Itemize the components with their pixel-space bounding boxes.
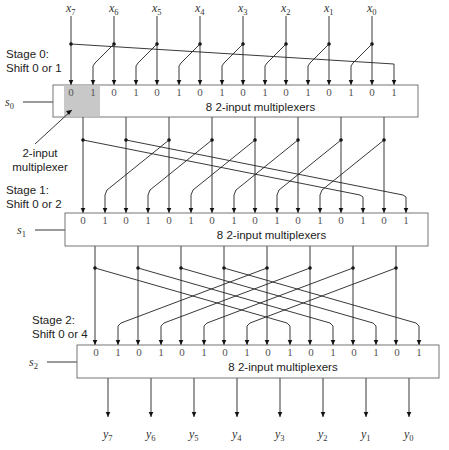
wraparound-wire — [71, 44, 394, 85]
mux-input-label-0: 0 — [283, 86, 289, 98]
arrowhead-icon — [136, 340, 141, 345]
arrowhead-icon — [167, 208, 172, 213]
callout-line2: multiplexer — [12, 161, 68, 173]
mux-input-label-1: 1 — [145, 214, 151, 226]
arrowhead-icon — [407, 412, 412, 417]
mux-input-label-1: 1 — [158, 346, 164, 358]
mux-input-label-0: 0 — [209, 214, 215, 226]
arrowhead-icon — [112, 80, 117, 85]
output-label: y1 — [360, 427, 371, 443]
input-label: x5 — [151, 1, 162, 17]
mux-input-label-0: 0 — [240, 86, 246, 98]
mux-input-label-0: 0 — [326, 86, 332, 98]
mux-input-label-1: 1 — [403, 214, 409, 226]
output-label: y7 — [102, 427, 113, 443]
mux-input-label-1: 1 — [201, 346, 207, 358]
arrowhead-icon — [93, 340, 98, 345]
mux-input-label-0: 0 — [351, 346, 357, 358]
mux-input-label-1: 1 — [330, 346, 336, 358]
arrowhead-icon — [265, 340, 270, 345]
mux-input-label-0: 0 — [369, 86, 375, 98]
callout-line1: 2-input — [22, 147, 58, 159]
wraparound-wire — [95, 268, 290, 345]
input-label: x4 — [194, 1, 205, 17]
arrowhead-icon — [296, 208, 301, 213]
mux-input-label-1: 1 — [188, 214, 194, 226]
arrowhead-icon — [263, 80, 268, 85]
output-label: y5 — [188, 427, 199, 443]
input-label: x0 — [366, 1, 377, 17]
shift-wire — [320, 140, 384, 213]
arrowhead-icon — [278, 412, 283, 417]
input-label: x6 — [108, 1, 119, 17]
mux-input-label-0: 0 — [123, 214, 129, 226]
arrowhead-icon — [210, 208, 215, 213]
stage-title: Stage 1: — [6, 184, 49, 196]
arrowhead-icon — [179, 340, 184, 345]
output-label: y2 — [317, 427, 328, 443]
shift-wire — [265, 44, 286, 85]
output-label: y6 — [145, 427, 156, 443]
stage-subtitle: Shift 0 or 2 — [6, 198, 62, 210]
arrowhead-icon — [351, 340, 356, 345]
select-signal-label: s0 — [5, 95, 14, 111]
shift-wire — [191, 140, 255, 213]
shift-wire — [93, 44, 114, 85]
arrowhead-icon — [245, 340, 250, 345]
arrowhead-icon — [116, 340, 121, 345]
mux-input-label-1: 1 — [244, 346, 250, 358]
mux-input-label-1: 1 — [373, 346, 379, 358]
stage-subtitle: Shift 0 or 1 — [6, 62, 62, 74]
arrowhead-icon — [106, 412, 111, 417]
arrowhead-icon — [275, 208, 280, 213]
stage-title: Stage 0: — [6, 48, 49, 60]
arrowhead-icon — [404, 208, 409, 213]
mux-input-label-0: 0 — [252, 214, 258, 226]
arrowhead-icon — [288, 340, 293, 345]
mux-input-label-1: 1 — [176, 86, 182, 98]
mux-stage-label: 8 2-input multiplexers — [206, 101, 316, 113]
shift-wire — [351, 44, 372, 85]
select-signal-label: s1 — [17, 223, 26, 239]
arrowhead-icon — [339, 208, 344, 213]
mux-input-label-0: 0 — [111, 86, 117, 98]
arrowhead-icon — [177, 80, 182, 85]
arrowhead-icon — [134, 80, 139, 85]
arrowhead-icon — [103, 208, 108, 213]
barrel-shifter-diagram: 01010101010101018 2-input multiplexers01… — [0, 0, 449, 450]
mux-stages: 01010101010101018 2-input multiplexers01… — [53, 85, 439, 378]
mux-input-label-0: 0 — [295, 214, 301, 226]
mux-input-label-0: 0 — [93, 346, 99, 358]
mux-input-label-0: 0 — [265, 346, 271, 358]
arrowhead-icon — [308, 340, 313, 345]
mux-input-label-1: 1 — [317, 214, 323, 226]
arrowhead-icon — [198, 80, 203, 85]
arrowhead-icon — [146, 208, 151, 213]
select-signal-label: s2 — [29, 355, 38, 371]
stage-title: Stage 2: — [32, 314, 75, 326]
output-label: y0 — [403, 427, 414, 443]
arrowhead-icon — [235, 412, 240, 417]
shift-wire — [179, 44, 200, 85]
arrowhead-icon — [327, 80, 332, 85]
input-label: x2 — [280, 1, 291, 17]
arrowhead-icon — [331, 340, 336, 345]
mux-input-label-0: 0 — [308, 346, 314, 358]
arrowhead-icon — [232, 208, 237, 213]
shift-wire — [308, 44, 329, 85]
arrowhead-icon — [91, 80, 96, 85]
mux-input-label-1: 1 — [360, 214, 366, 226]
arrowhead-icon — [364, 412, 369, 417]
mux-input-label-0: 0 — [338, 214, 344, 226]
mux-input-label-0: 0 — [166, 214, 172, 226]
arrowhead-icon — [306, 80, 311, 85]
mux-input-label-0: 0 — [136, 346, 142, 358]
arrowhead-icon — [159, 340, 164, 345]
arrowhead-icon — [361, 208, 366, 213]
mux-stage-label: 8 2-input multiplexers — [217, 229, 327, 241]
arrowhead-icon — [222, 340, 227, 345]
arrowhead-icon — [202, 340, 207, 345]
arrowhead-icon — [220, 80, 225, 85]
mux-input-label-1: 1 — [231, 214, 237, 226]
arrowhead-icon — [392, 80, 397, 85]
